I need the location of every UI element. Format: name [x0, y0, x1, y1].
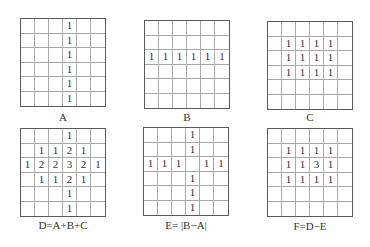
grid-cell: [172, 143, 186, 158]
grid-cell: [77, 187, 91, 202]
grid-cell: [144, 143, 158, 158]
grid-cell: [201, 21, 215, 36]
grid-cell: [159, 94, 173, 109]
grid-cell: [21, 19, 35, 34]
grid-cell: [338, 129, 352, 144]
grid-cell: [35, 19, 49, 34]
grid-cell: [296, 202, 310, 217]
grid-cell: [201, 36, 215, 51]
grid-cell: [338, 66, 352, 81]
grid-cell: [214, 201, 228, 216]
grid-cell: 1: [63, 129, 77, 144]
grid-cell: 1: [324, 144, 338, 159]
grid-cell: [214, 128, 228, 143]
grid-cell: [21, 63, 35, 78]
grid-cell: [338, 202, 352, 217]
grid-cell: [21, 129, 35, 144]
grid-cell: 1: [214, 157, 228, 172]
grid-cell: [310, 95, 324, 110]
grid-cell: [77, 129, 91, 144]
grid-cell: [91, 34, 105, 49]
grid-cell: [35, 129, 49, 144]
grid-cell: [35, 187, 49, 202]
grid-cell: [21, 202, 35, 217]
grid-cell: 1: [63, 77, 77, 92]
grid-cell: [338, 187, 352, 202]
grid-cell: [214, 186, 228, 201]
grid-cell: 1: [296, 66, 310, 81]
grid-label-b: B: [127, 111, 247, 123]
grid-e: 1111111111: [143, 127, 229, 216]
grid-cell: 1: [49, 144, 63, 159]
grid-cell: [91, 202, 105, 217]
grid-cell: [49, 187, 63, 202]
grid-cell: [172, 201, 186, 216]
grid-cell: [77, 92, 91, 107]
grid-cell: [215, 79, 229, 94]
grid-cell: 1: [187, 50, 201, 65]
grid-cell: [158, 128, 172, 143]
grid-cell: 1: [186, 201, 200, 216]
grid-cell: 1: [173, 50, 187, 65]
grid-cell: [187, 65, 201, 80]
grid-cell: [310, 80, 324, 95]
grid-cell: [324, 22, 338, 37]
grid-cell: 1: [49, 173, 63, 188]
grid-cell: [200, 201, 214, 216]
grid-cell: [21, 34, 35, 49]
grid-cell: 1: [77, 173, 91, 188]
grid-cell: [35, 92, 49, 107]
grid-cell: [35, 77, 49, 92]
grid-cell: [91, 187, 105, 202]
grid-cell: [282, 187, 296, 202]
grid-cell: 1: [186, 128, 200, 143]
grid-cell: [49, 63, 63, 78]
grid-cell: [172, 172, 186, 187]
grid-label-f: F=D−E: [250, 220, 370, 232]
grid-cell: [21, 92, 35, 107]
grid-cell: [268, 158, 282, 173]
grid-cell: [145, 36, 159, 51]
grid-cell: [49, 48, 63, 63]
grid-cell: 3: [63, 158, 77, 173]
grid-cell: [173, 65, 187, 80]
grid-cell: 1: [35, 144, 49, 159]
grid-cell: 1: [158, 157, 172, 172]
grid-cell: 3: [310, 158, 324, 173]
grid-cell: [35, 202, 49, 217]
grid-cell: 1: [201, 50, 215, 65]
grid-cell: 1: [77, 144, 91, 159]
grid-cell: [187, 21, 201, 36]
grid-cell: [324, 187, 338, 202]
grid-cell: 2: [49, 158, 63, 173]
grid-cell: 1: [324, 66, 338, 81]
grid-cell: 1: [310, 51, 324, 66]
grid-cell: [173, 36, 187, 51]
grid-cell: [91, 19, 105, 34]
grid-cell: [296, 187, 310, 202]
grid-cell: [49, 77, 63, 92]
grid-cell: [91, 63, 105, 78]
grid-cell: 1: [324, 158, 338, 173]
grid-cell: [144, 186, 158, 201]
grid-cell: [215, 94, 229, 109]
grid-cell: [21, 187, 35, 202]
grid-cell: [296, 22, 310, 37]
grid-cell: 1: [282, 144, 296, 159]
grid-cell: [35, 34, 49, 49]
grid-cell: [77, 48, 91, 63]
grid-cell: [310, 129, 324, 144]
grid-cell: 1: [63, 187, 77, 202]
grid-cell: [200, 172, 214, 187]
grid-cell: [49, 19, 63, 34]
grid-cell: [310, 187, 324, 202]
grid-cell: [49, 129, 63, 144]
grid-cell: 1: [324, 173, 338, 188]
grid-cell: [187, 79, 201, 94]
grid-cell: 1: [215, 50, 229, 65]
grid-cell: [296, 80, 310, 95]
grid-cell: [144, 172, 158, 187]
grid-d: 11121122321112111: [20, 128, 106, 217]
grid-cell: 1: [63, 202, 77, 217]
grid-cell: [338, 37, 352, 52]
